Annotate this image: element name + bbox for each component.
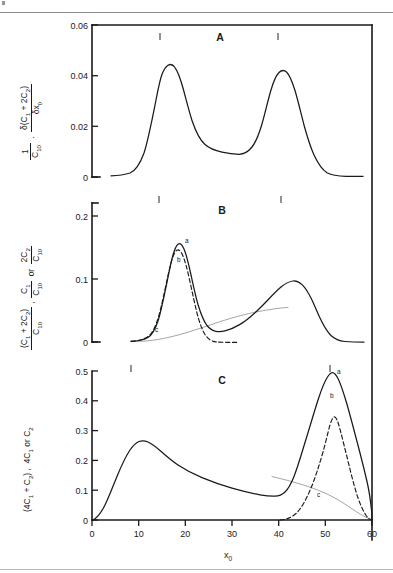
panel-a-ylabel-0: 0 (83, 173, 88, 183)
panel-c-xlabel-20: 20 (180, 529, 190, 539)
panel-c-xlabel-60: 60 (367, 529, 377, 539)
panel-b-ylabel: (C1 + 2C2)C10 , C1C10 or 2C2C10 (20, 246, 43, 350)
x-axis-title: x0 (224, 550, 233, 562)
panel-c-letter: C (218, 374, 226, 386)
panel-c-ylabel-0: 0 (83, 516, 88, 526)
panel-c-ylabel-05: 0.5 (75, 367, 88, 377)
panel-c-xlabel-0: 0 (89, 529, 94, 539)
panel-a-ylabel-002: 0.02 (70, 122, 88, 132)
footer-rule (0, 569, 393, 570)
figure-svg: 0.06 0.04 0.02 0 A 0.2 0.1 0 B (0, 0, 393, 573)
header-rule (0, 12, 393, 13)
panel-b-ylabel-02: 0.2 (75, 212, 88, 222)
panel-b: 0.2 0.1 0 B a b c (75, 196, 364, 348)
panel-a: 0.06 0.04 0.02 0 A (70, 21, 363, 183)
panel-c-xlabel-40: 40 (274, 529, 284, 539)
page-corner-mark (2, 1, 5, 5)
panel-b-curve-c (131, 307, 288, 341)
panel-c-curve-c (272, 477, 371, 520)
panel-b-curvelabel-c: c (155, 326, 159, 333)
panel-c: 0.5 0.4 0.3 0.2 0.1 0 0 10 20 30 40 50 6… (75, 365, 377, 539)
panel-c-ylabel: (4C1 + C2) , 4C1 or C2 (23, 427, 34, 512)
panel-c-ylabel-01: 0.1 (75, 486, 88, 496)
panel-c-curvelabel-a: a (337, 368, 341, 375)
panel-c-xlabel-10: 10 (134, 529, 144, 539)
panel-c-curve-b (280, 417, 372, 520)
panel-b-curve-a (131, 244, 364, 343)
panel-c-xlabel-50: 50 (320, 529, 330, 539)
panel-b-curve-b (131, 250, 238, 342)
panel-a-ylabel-004: 0.04 (70, 71, 88, 81)
panel-a-curve (111, 65, 363, 177)
panel-b-letter: B (218, 204, 226, 216)
panel-c-ylabel-03: 0.3 (75, 426, 88, 436)
panel-c-ylabel-02: 0.2 (75, 456, 88, 466)
panel-c-curvelabel-c: c (317, 491, 321, 498)
figure-container: 1C10 . δ(C1 + 2C2)δx0 (C1 + 2C2)C10 , C1… (0, 0, 393, 573)
panel-b-curvelabel-a: a (185, 237, 189, 244)
panel-c-xlabel-30: 30 (227, 529, 237, 539)
panel-a-ylabel: 1C10 . δ(C1 + 2C2)δx0 (20, 84, 43, 160)
panel-c-ylabel-04: 0.4 (75, 396, 88, 406)
panel-a-letter: A (216, 31, 224, 43)
panel-b-ylabel-01: 0.1 (75, 275, 88, 285)
panel-b-ylabel-0: 0 (83, 338, 88, 348)
panel-b-curvelabel-b: b (177, 256, 181, 263)
panel-a-ylabel-006: 0.06 (70, 21, 88, 31)
panel-c-curvelabel-b: b (330, 392, 334, 399)
